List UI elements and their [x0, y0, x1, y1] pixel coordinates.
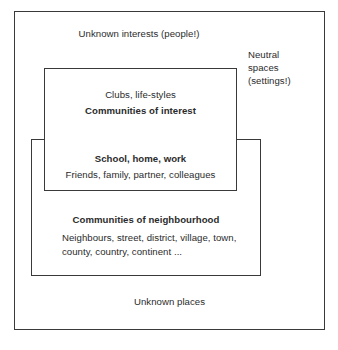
- label-neutral-spaces: Neutral spaces (settings!): [248, 48, 330, 88]
- diagram-canvas: Unknown interests (people!) Neutral spac…: [0, 0, 338, 350]
- label-neutral-spaces-line-3: (settings!): [248, 74, 330, 87]
- label-neutral-spaces-line-2: spaces: [248, 61, 330, 74]
- label-friends-family-partner-colleagues: Friends, family, partner, colleagues: [40, 168, 241, 182]
- label-neutral-spaces-line-1: Neutral: [248, 48, 330, 61]
- label-neighbourhood-places-list: Neighbours, street, district, village, t…: [62, 231, 252, 259]
- label-clubs-life-styles: Clubs, life-styles: [44, 88, 237, 102]
- label-communities-of-interest: Communities of interest: [44, 104, 237, 118]
- label-unknown-interests: Unknown interests (people!): [14, 27, 264, 41]
- label-school-home-work: School, home, work: [44, 152, 237, 166]
- label-unknown-places: Unknown places: [14, 295, 325, 309]
- label-communities-of-neighbourhood: Communities of neighbourhood: [31, 213, 261, 227]
